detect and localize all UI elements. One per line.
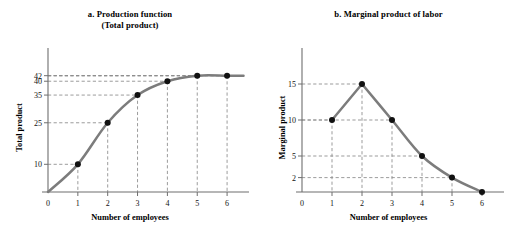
data-point [359, 81, 365, 87]
y-tick-label: 25 [34, 119, 42, 128]
y-tick-label: 2 [292, 174, 296, 183]
x-tick-label: 4 [420, 199, 424, 208]
x-tick-label: 6 [480, 199, 484, 208]
x-tick-label: 0 [300, 199, 304, 208]
data-point [479, 189, 485, 195]
tick-labels-group: 01234561025354042 [34, 72, 229, 208]
tick-labels-group: 0123456251015 [288, 80, 484, 208]
y-tick-label: 10 [34, 160, 42, 169]
data-point [224, 73, 230, 79]
curve-group [48, 75, 244, 192]
x-tick-label: 3 [136, 199, 140, 208]
curve-group [332, 84, 482, 192]
y-tick-label: 35 [34, 91, 42, 100]
axes-group [42, 48, 249, 196]
x-tick-label: 3 [390, 199, 394, 208]
y-tick-label: 10 [288, 116, 296, 125]
data-point [105, 120, 111, 126]
curve-rising-segment [332, 84, 362, 120]
data-point [75, 161, 81, 167]
data-point [164, 78, 170, 84]
x-tick-label: 6 [225, 199, 229, 208]
data-point [389, 117, 395, 123]
panel-a-plot: 01234561025354042 [0, 0, 260, 239]
panel-b-plot: 0123456251015 [260, 0, 517, 239]
data-point [449, 175, 455, 181]
panel-marginal-product: b. Marginal product of labor Marginal pr… [260, 0, 517, 239]
production-curve [48, 75, 244, 192]
y-tick-label: 42 [34, 72, 42, 81]
x-tick-label: 0 [46, 199, 50, 208]
y-tick-label: 5 [292, 152, 296, 161]
panel-production-function: a. Production function (Total product) T… [0, 0, 260, 239]
x-tick-label: 1 [330, 199, 334, 208]
x-tick-label: 5 [195, 199, 199, 208]
x-tick-label: 1 [76, 199, 80, 208]
data-point [135, 92, 141, 98]
data-point [419, 153, 425, 159]
axes-group [296, 48, 504, 196]
figure-container: a. Production function (Total product) T… [0, 0, 517, 239]
x-tick-label: 2 [360, 199, 364, 208]
data-point [194, 73, 200, 79]
data-point [329, 117, 335, 123]
x-tick-label: 4 [165, 199, 169, 208]
x-tick-label: 2 [106, 199, 110, 208]
x-tick-label: 5 [450, 199, 454, 208]
y-tick-label: 15 [288, 80, 296, 89]
